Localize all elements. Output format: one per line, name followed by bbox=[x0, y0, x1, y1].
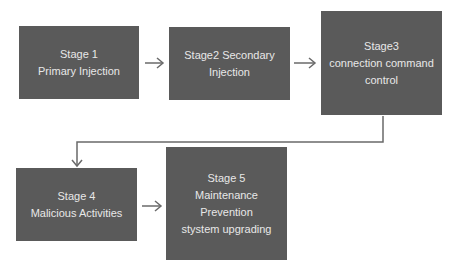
stage-1-desc: Primary Injection bbox=[38, 63, 120, 80]
stage-5-desc-line1: Maintenance bbox=[195, 187, 258, 204]
stage-5-desc-line2: Prevention bbox=[200, 204, 253, 221]
stage-1-title: Stage 1 bbox=[60, 46, 98, 63]
stage-4-desc: Malicious Activities bbox=[31, 205, 123, 222]
stage-3-desc-line2: control bbox=[365, 72, 398, 89]
stage-2-box: Stage2 Secondary Injection bbox=[169, 27, 290, 100]
stage-3-desc-line1: connection command bbox=[329, 55, 434, 72]
stage-3-title: Stage3 bbox=[364, 38, 399, 55]
stage-4-box: Stage 4 Malicious Activities bbox=[16, 168, 137, 241]
stage-2-desc: Injection bbox=[209, 64, 250, 81]
stage-2-title: Stage2 Secondary bbox=[184, 47, 275, 64]
stage-5-desc-line3: stystem upgrading bbox=[182, 221, 272, 238]
stage-3-box: Stage3 connection command control bbox=[321, 11, 442, 115]
stage-5-box: Stage 5 Maintenance Prevention stystem u… bbox=[166, 147, 287, 260]
stage-5-title: Stage 5 bbox=[208, 170, 246, 187]
stage-4-title: Stage 4 bbox=[58, 188, 96, 205]
stage-1-box: Stage 1 Primary Injection bbox=[19, 26, 139, 99]
